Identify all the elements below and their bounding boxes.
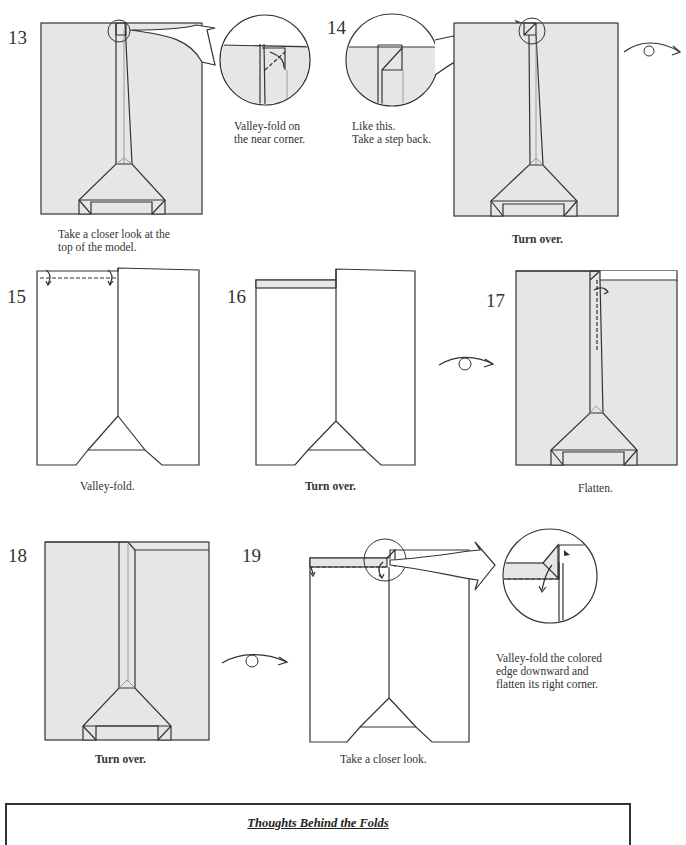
step-19-caption: Take a closer look. [340,753,427,766]
turn-over-icon [624,43,680,56]
step-13-zoom-caption: Valley-fold on the near corner. [234,120,305,146]
step-15-caption: Valley-fold. [80,480,135,493]
step-16-caption: Turn over. [305,480,356,493]
step-13-diagram [0,0,330,225]
step-number-17: 17 [486,290,505,312]
turn-over-icon [430,350,510,380]
step-14-zoom-caption: Like this. Take a step back. [352,120,431,146]
step-19-zoom-caption: Valley-fold the colored edge downward an… [496,652,602,691]
thoughts-title: Thoughts Behind the Folds [7,816,629,831]
step-18-diagram [0,520,220,740]
step-19-diagram [280,520,686,740]
step-14-caption: Turn over. [512,233,563,246]
step-14-diagram [330,0,686,225]
step-17-caption: Flatten. [578,482,613,495]
step-18-caption: Turn over. [95,753,146,766]
step-number-19: 19 [242,545,261,567]
step-15-diagram [0,250,220,470]
step-16-diagram [200,250,420,470]
step-17-diagram [510,250,686,470]
thoughts-box: Thoughts Behind the Folds [5,803,631,845]
